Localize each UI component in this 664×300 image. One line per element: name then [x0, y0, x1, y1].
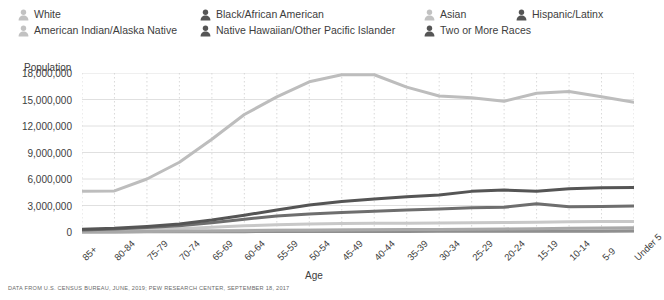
- y-axis-tick: 18,000,000: [22, 68, 72, 79]
- person-icon: [200, 9, 211, 21]
- person-icon: [200, 25, 211, 37]
- y-axis-tick: 9,000,000: [28, 147, 73, 158]
- legend-item[interactable]: Asian: [424, 8, 466, 21]
- source-note: DATA FROM U.S. CENSUS BUREAU, JUNE, 2019…: [8, 285, 289, 291]
- y-axis-tick: 0: [66, 227, 72, 238]
- plot-canvas: [82, 73, 634, 232]
- legend-label: White: [34, 8, 61, 21]
- x-axis-labels: 85+80-8475-7970-7465-6960-6455-5950-5445…: [0, 255, 650, 285]
- person-icon: [424, 9, 435, 21]
- legend-item[interactable]: Black/African American: [200, 8, 324, 21]
- y-axis-tick: 3,000,000: [28, 200, 73, 211]
- chart-area: Population 18,000,00015,000,00012,000,00…: [0, 54, 650, 254]
- legend-label: Hispanic/Latinx: [532, 8, 603, 21]
- y-axis-tick: 6,000,000: [28, 174, 73, 185]
- legend-item[interactable]: Two or More Races: [424, 24, 531, 37]
- legend-item[interactable]: White: [18, 8, 61, 21]
- legend-item[interactable]: Hispanic/Latinx: [516, 8, 603, 21]
- data-line: [82, 75, 634, 192]
- legend-label: American Indian/Alaska Native: [34, 24, 177, 37]
- y-axis-labels: 18,000,00015,000,00012,000,0009,000,0006…: [0, 54, 78, 239]
- legend-item[interactable]: American Indian/Alaska Native: [18, 24, 177, 37]
- legend-label: Black/African American: [216, 8, 324, 21]
- person-icon: [18, 9, 29, 21]
- legend-label: Native Hawaiian/Other Pacific Islander: [216, 24, 395, 37]
- y-axis-tick: 15,000,000: [22, 94, 72, 105]
- chart-legend: WhiteAmerican Indian/Alaska NativeBlack/…: [0, 8, 650, 54]
- y-axis-tick: 12,000,000: [22, 121, 72, 132]
- legend-label: Asian: [440, 8, 466, 21]
- person-icon: [424, 25, 435, 37]
- person-icon: [516, 9, 527, 21]
- person-icon: [18, 25, 29, 37]
- legend-item[interactable]: Native Hawaiian/Other Pacific Islander: [200, 24, 395, 37]
- legend-label: Two or More Races: [440, 24, 531, 37]
- x-axis-title: Age: [305, 270, 323, 281]
